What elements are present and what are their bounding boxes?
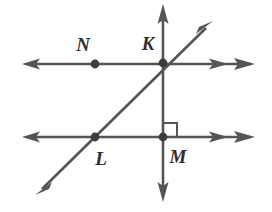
geometry-figure: N K L M [0,0,272,212]
top-horizontal-line [22,58,255,70]
point-label-K: K [142,34,155,53]
point-dot-L [91,133,100,142]
point-label-L: L [95,149,107,168]
diagonal-line [35,21,213,195]
geometry-canvas [0,0,272,212]
vertical-line [158,4,169,202]
bottom-horizontal-line [22,131,255,143]
point-dot-N [91,60,100,69]
point-label-M: M [170,147,187,166]
point-dot-K [159,59,168,68]
point-label-N: N [76,35,90,54]
point-dot-M [159,133,168,142]
